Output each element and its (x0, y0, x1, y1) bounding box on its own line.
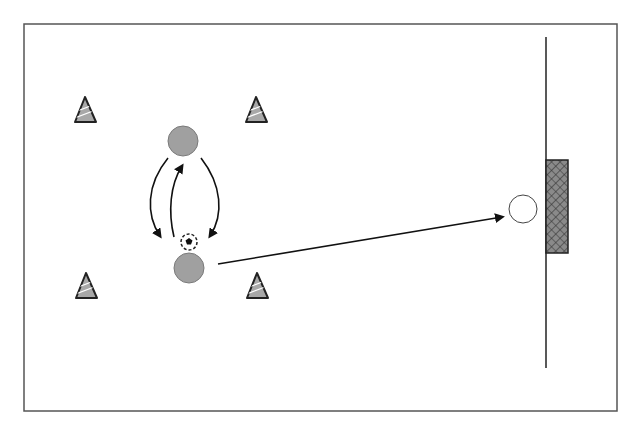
run-arrow-left (150, 158, 168, 236)
player-bottom (174, 253, 204, 283)
soccer-ball-icon (181, 234, 197, 250)
target-player (509, 195, 537, 223)
cone-icon (244, 273, 270, 298)
goal-net (546, 160, 568, 253)
cone-icon (72, 97, 98, 122)
pass-arrow-up (171, 166, 182, 237)
player-top (168, 126, 198, 156)
run-arrow-right (201, 158, 219, 236)
cone-icon (73, 273, 99, 298)
cone-icon (243, 97, 269, 122)
drill-diagram (0, 0, 639, 438)
shot-arrow (218, 217, 502, 264)
